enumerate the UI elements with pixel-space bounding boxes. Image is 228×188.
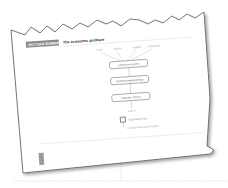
input-label: Land (96, 47, 103, 51)
side-tab (39, 153, 45, 165)
input-label: Labour (113, 46, 121, 51)
checkbox[interactable] (120, 117, 125, 122)
input-label: Capital (132, 45, 141, 50)
torn-paper-diagram: SECTION SUMMARY The economic problem Lan… (0, 0, 228, 188)
paper-sheet (11, 12, 214, 173)
connector-label: leads to (128, 109, 137, 113)
